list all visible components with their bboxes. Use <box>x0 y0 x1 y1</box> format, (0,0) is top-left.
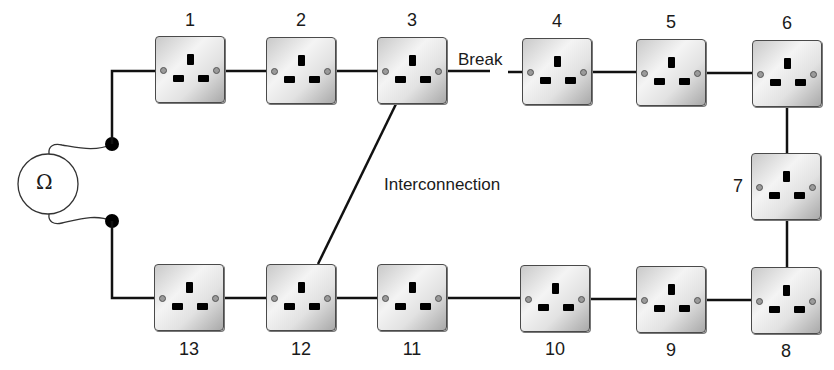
earth-pin-slot-icon <box>783 285 790 296</box>
fixing-screw-icon <box>160 67 167 74</box>
fixing-screw-icon <box>809 184 816 191</box>
socket-13 <box>154 264 224 331</box>
fixing-screw-icon <box>694 297 701 304</box>
neutral-pin-slot-icon <box>679 305 690 312</box>
fixing-screw-icon <box>525 296 532 303</box>
live-pin-slot-icon <box>769 306 780 313</box>
earth-pin-slot-icon <box>186 282 193 293</box>
socket-12 <box>266 264 336 331</box>
socket-2 <box>266 37 336 104</box>
socket-8 <box>751 267 821 334</box>
fixing-screw-icon <box>578 296 585 303</box>
earth-pin-slot-icon <box>187 54 194 65</box>
neutral-pin-slot-icon <box>197 303 208 310</box>
socket-label-3: 3 <box>392 10 432 30</box>
socket-1 <box>155 36 225 103</box>
socket-4 <box>522 38 592 105</box>
socket-label-10: 10 <box>535 339 575 359</box>
ohm-symbol: Ω <box>36 172 53 192</box>
live-pin-slot-icon <box>654 305 665 312</box>
neutral-pin-slot-icon <box>565 77 576 84</box>
earth-pin-slot-icon <box>668 57 675 68</box>
socket-5 <box>636 39 706 106</box>
meter-lead-bottom <box>49 214 112 224</box>
interconnection-label: Interconnection <box>384 175 500 195</box>
live-pin-slot-icon <box>284 303 295 310</box>
neutral-pin-slot-icon <box>309 76 320 83</box>
socket-9 <box>636 266 706 333</box>
fixing-screw-icon <box>271 68 278 75</box>
earth-pin-slot-icon <box>784 58 791 69</box>
neutral-pin-slot-icon <box>420 303 431 310</box>
wire-meter-to-1 <box>112 71 155 144</box>
neutral-pin-slot-icon <box>794 306 805 313</box>
socket-11 <box>377 264 447 331</box>
fixing-screw-icon <box>641 70 648 77</box>
socket-label-8: 8 <box>766 341 806 361</box>
earth-pin-slot-icon <box>298 282 305 293</box>
socket-label-1: 1 <box>170 10 210 30</box>
fixing-screw-icon <box>213 67 220 74</box>
live-pin-slot-icon <box>173 75 184 82</box>
neutral-pin-slot-icon <box>309 303 320 310</box>
earth-pin-slot-icon <box>298 55 305 66</box>
socket-label-6: 6 <box>767 13 807 33</box>
fixing-screw-icon <box>757 71 764 78</box>
neutral-pin-slot-icon <box>198 75 209 82</box>
earth-pin-slot-icon <box>554 56 561 67</box>
earth-pin-slot-icon <box>552 283 559 294</box>
fixing-screw-icon <box>271 295 278 302</box>
fixing-screw-icon <box>527 69 534 76</box>
fixing-screw-icon <box>212 295 219 302</box>
socket-label-11: 11 <box>392 339 432 359</box>
ohmmeter <box>18 144 112 224</box>
live-pin-slot-icon <box>538 304 549 311</box>
socket-label-9: 9 <box>651 340 691 360</box>
live-pin-slot-icon <box>540 77 551 84</box>
socket-10 <box>520 265 590 332</box>
live-pin-slot-icon <box>172 303 183 310</box>
socket-3 <box>377 37 447 104</box>
fixing-screw-icon <box>809 298 816 305</box>
break-label: Break <box>458 50 502 70</box>
socket-label-12: 12 <box>281 339 321 359</box>
fixing-screw-icon <box>641 297 648 304</box>
fixing-screw-icon <box>756 298 763 305</box>
fixing-screw-icon <box>324 68 331 75</box>
fixing-screw-icon <box>435 68 442 75</box>
fixing-screw-icon <box>435 295 442 302</box>
socket-label-4: 4 <box>537 11 577 31</box>
neutral-pin-slot-icon <box>420 76 431 83</box>
fixing-screw-icon <box>694 70 701 77</box>
fixing-screw-icon <box>324 295 331 302</box>
neutral-pin-slot-icon <box>563 304 574 311</box>
socket-label-7: 7 <box>718 176 758 196</box>
wire-13-to-meter <box>112 221 154 298</box>
meter-lead-top <box>49 144 112 154</box>
earth-pin-slot-icon <box>783 171 790 182</box>
earth-pin-slot-icon <box>668 284 675 295</box>
socket-6 <box>752 40 822 107</box>
neutral-pin-slot-icon <box>794 192 805 199</box>
neutral-pin-slot-icon <box>679 78 690 85</box>
fixing-screw-icon <box>580 69 587 76</box>
earth-pin-slot-icon <box>409 55 416 66</box>
socket-7 <box>751 153 821 220</box>
live-pin-slot-icon <box>395 303 406 310</box>
live-pin-slot-icon <box>395 76 406 83</box>
neutral-pin-slot-icon <box>795 79 806 86</box>
live-pin-slot-icon <box>654 78 665 85</box>
fixing-screw-icon <box>382 295 389 302</box>
fixing-screw-icon <box>159 295 166 302</box>
live-pin-slot-icon <box>770 79 781 86</box>
live-pin-slot-icon <box>769 192 780 199</box>
live-pin-slot-icon <box>284 76 295 83</box>
fixing-screw-icon <box>810 71 817 78</box>
fixing-screw-icon <box>382 68 389 75</box>
socket-label-13: 13 <box>169 339 209 359</box>
earth-pin-slot-icon <box>409 282 416 293</box>
socket-label-5: 5 <box>651 12 691 32</box>
socket-label-2: 2 <box>281 10 321 30</box>
